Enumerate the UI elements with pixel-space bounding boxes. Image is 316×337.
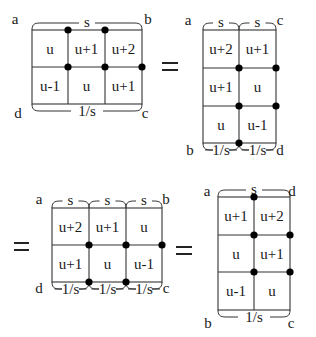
bottom-brace-label: 1/s <box>135 281 153 297</box>
cell-label: u+1 <box>75 41 98 57</box>
vertex-dot <box>250 193 257 200</box>
cell-label: u+2 <box>260 208 283 224</box>
diagram-3: u+2u+1uu+1uu-1sss1/s1/s1/sabdc <box>35 191 170 297</box>
cell-label: u <box>83 78 91 94</box>
cell-label: u-1 <box>134 256 154 272</box>
bottom-brace-right <box>266 143 276 150</box>
vertex-dot <box>122 278 129 285</box>
top-brace-right <box>116 201 127 208</box>
corner-label-tl: a <box>12 11 19 27</box>
bottom-brace-left <box>52 282 62 289</box>
cell-label: u+1 <box>112 78 135 94</box>
top-brace-left <box>32 23 79 30</box>
vertex-dot <box>64 26 71 33</box>
bottom-brace-left <box>218 310 238 317</box>
top-brace-label: s <box>84 14 90 30</box>
cell-label: u+1 <box>246 41 269 57</box>
bottom-brace-right <box>103 104 142 111</box>
vertex-dot <box>138 63 145 70</box>
bottom-brace-label: 1/s <box>78 103 96 119</box>
top-brace-right <box>229 23 239 30</box>
corner-label-tl: a <box>204 183 211 199</box>
corner-label-br: c <box>142 105 149 121</box>
cell-label: u <box>217 117 225 133</box>
bottom-brace-label: 1/s <box>62 281 80 297</box>
top-brace-label: s <box>218 14 224 30</box>
corner-label-br: c <box>163 280 170 296</box>
corner-label-br: d <box>276 142 284 158</box>
bottom-brace-label: 1/s <box>99 281 117 297</box>
equals-sign <box>14 243 29 250</box>
corner-label-tr: b <box>162 191 170 207</box>
top-brace-right <box>152 201 162 208</box>
vertex-dot <box>158 241 165 248</box>
top-brace-label: s <box>105 192 111 208</box>
top-brace-left <box>89 201 100 208</box>
top-brace-right <box>262 190 290 197</box>
vertex-dot <box>122 241 129 248</box>
top-brace-left <box>218 190 246 197</box>
top-brace-right <box>266 23 277 30</box>
cell-label: u+1 <box>209 79 232 95</box>
top-brace-left <box>239 23 250 30</box>
cell-label: u+2 <box>209 41 232 57</box>
diagram-1: uu+1u+2u-1uu+1s1/sabdc <box>12 11 152 121</box>
cell-label: u+2 <box>112 41 135 57</box>
cell-label: u <box>268 283 276 299</box>
top-brace-left <box>203 23 213 30</box>
vertex-dot <box>235 139 242 146</box>
cell-label: u <box>232 246 240 262</box>
vertex-dot <box>250 231 257 238</box>
cell-label: u <box>140 219 148 235</box>
cell-label: u-1 <box>248 117 268 133</box>
corner-label-tr: b <box>144 11 152 27</box>
cell-label: u+1 <box>260 246 283 262</box>
top-brace-right <box>79 201 90 208</box>
vertex-dot <box>286 268 293 275</box>
vertex-dot <box>250 268 257 275</box>
equals-sign <box>162 63 178 70</box>
vertex-dot <box>272 102 279 109</box>
bottom-brace-label: 1/s <box>212 142 230 158</box>
cell-label: u+1 <box>224 208 247 224</box>
cell-label: u <box>46 41 54 57</box>
corner-label-bl: b <box>204 315 212 331</box>
cell-label: u-1 <box>226 283 246 299</box>
corner-label-br: c <box>288 315 295 331</box>
corner-label-tl: a <box>185 12 192 28</box>
cell-label: u+2 <box>59 219 82 235</box>
diagram-2: u+2u+1u+1uuu-1ss1/s1/sacbd <box>185 12 285 158</box>
corner-label-tl: a <box>36 191 43 207</box>
cell-label: u <box>104 256 112 272</box>
top-brace-label: s <box>141 192 147 208</box>
vertex-dot <box>85 278 92 285</box>
vertex-dot <box>85 241 92 248</box>
vertex-dot <box>235 64 242 71</box>
diagram-4: u+1u+2uu+1u-1us1/sadbc <box>204 181 297 331</box>
bottom-brace-right <box>152 282 162 289</box>
bottom-brace-label: 1/s <box>245 309 263 325</box>
corner-label-bl: d <box>14 105 22 121</box>
cell-label: u-1 <box>40 78 60 94</box>
vertex-dot <box>64 63 71 70</box>
equals-sign <box>176 247 192 254</box>
cell-label: u <box>254 79 262 95</box>
top-brace-label: s <box>68 192 74 208</box>
bottom-brace-label: 1/s <box>249 142 267 158</box>
top-brace-label: s <box>255 14 261 30</box>
top-brace-left <box>52 201 63 208</box>
cell-label: u+1 <box>59 256 82 272</box>
bottom-brace-left <box>32 104 71 111</box>
vertex-dot <box>286 231 293 238</box>
top-brace-left <box>126 201 136 208</box>
vertex-dot <box>235 102 242 109</box>
lattice-equivalence-figure: uu+1u+2u-1uu+1s1/sabdcu+2u+1u+1uuu-1ss1/… <box>0 0 316 337</box>
vertex-dot <box>101 26 108 33</box>
vertex-dot <box>272 64 279 71</box>
vertex-dot <box>101 63 108 70</box>
corner-label-bl: d <box>35 280 43 296</box>
corner-label-bl: b <box>186 142 194 158</box>
corner-label-tr: d <box>288 183 296 199</box>
corner-label-tr: c <box>277 12 284 28</box>
cell-label: u+1 <box>96 219 119 235</box>
